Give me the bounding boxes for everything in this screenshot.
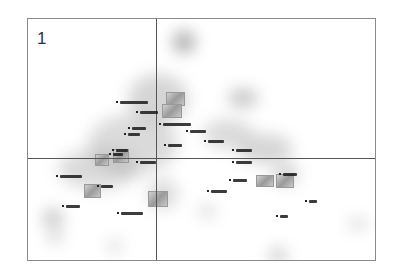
point-label (163, 123, 191, 126)
point-label (60, 175, 82, 178)
thumbnail-image (276, 174, 294, 188)
thumbnail-image (162, 104, 182, 118)
data-point (164, 144, 166, 146)
point-label (211, 190, 227, 193)
data-point (305, 200, 307, 202)
point-label (280, 215, 288, 218)
point-label (120, 101, 148, 104)
data-point (204, 140, 206, 142)
density-blob (43, 209, 63, 227)
thumbnail-image (256, 175, 274, 187)
data-point (232, 161, 234, 163)
point-label (140, 111, 158, 114)
data-point (207, 190, 209, 192)
point-label (121, 212, 143, 215)
data-point (117, 212, 119, 214)
point-label (236, 161, 252, 164)
data-point (159, 123, 161, 125)
point-label (236, 149, 252, 152)
data-point (109, 153, 111, 155)
point-label (113, 153, 123, 156)
scatter-map-frame: 1 (27, 18, 376, 261)
density-blob (48, 229, 62, 243)
density-blob (200, 204, 214, 218)
density-blob (173, 31, 195, 53)
data-point (112, 149, 114, 151)
data-point (279, 173, 281, 175)
data-point (97, 185, 99, 187)
density-blob (348, 219, 368, 229)
point-label (116, 149, 128, 152)
point-label (208, 140, 224, 143)
density-blob (228, 89, 258, 107)
thumbnail-image (95, 154, 109, 166)
point-label (283, 173, 297, 176)
point-label (132, 127, 146, 130)
point-label (168, 144, 182, 147)
data-point (116, 101, 118, 103)
point-label (233, 179, 247, 182)
point-label (309, 200, 317, 203)
data-point (276, 215, 278, 217)
point-label (190, 130, 206, 133)
data-point (136, 161, 138, 163)
horizontal-axis (28, 158, 375, 159)
point-label (128, 133, 140, 136)
panel-number: 1 (37, 29, 46, 49)
vertical-axis (156, 19, 157, 260)
data-point (232, 149, 234, 151)
point-label (140, 161, 156, 164)
data-point (136, 111, 138, 113)
density-blob (270, 247, 286, 261)
data-point (128, 127, 130, 129)
data-point (56, 175, 58, 177)
data-point (62, 205, 64, 207)
data-point (124, 133, 126, 135)
density-blob (108, 239, 122, 253)
data-point (229, 179, 231, 181)
thumbnail-image (148, 191, 168, 207)
data-point (186, 130, 188, 132)
point-label (101, 185, 113, 188)
point-label (66, 205, 80, 208)
